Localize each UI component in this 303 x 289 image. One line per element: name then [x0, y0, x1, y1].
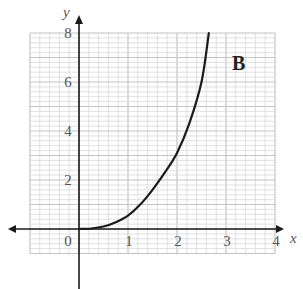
x-axis-arrow-left-icon	[8, 225, 16, 233]
tick-labels: 012342468	[64, 25, 280, 249]
x-tick-label: 3	[223, 233, 231, 249]
y-tick-label: 2	[64, 172, 72, 188]
x-axis-label: x	[289, 230, 297, 246]
chart: 012342468 x y B	[0, 0, 303, 289]
panel-label: B	[232, 52, 245, 74]
y-tick-label: 8	[64, 25, 72, 41]
x-axis-arrow-right-icon	[276, 225, 284, 233]
y-tick-label: 6	[64, 74, 72, 90]
y-tick-label: 4	[64, 123, 72, 139]
y-axis-arrow-icon	[75, 15, 83, 24]
x-tick-label: 1	[125, 233, 133, 249]
x-tick-label: 4	[272, 233, 280, 249]
x-tick-label: 2	[174, 233, 182, 249]
y-axis-label: y	[61, 4, 70, 20]
x-tick-label: 0	[64, 233, 72, 249]
